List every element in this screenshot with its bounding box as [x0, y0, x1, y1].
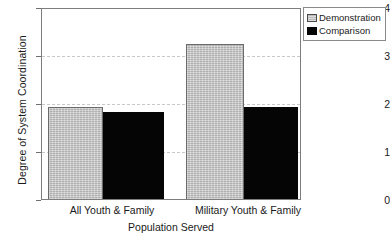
y-tick-label-1: 1	[364, 147, 390, 157]
legend-label-comparison: Comparison	[319, 25, 370, 36]
bar-demonstration-all-youth-family[interactable]	[48, 107, 103, 199]
x-tick-label-all-youth-family: All Youth & Family	[47, 204, 177, 216]
y-tick-label-3: 3	[364, 51, 390, 61]
y-tick-label-0: 0	[364, 195, 390, 205]
bar-chart-figure: Degree of System Coordination 4 3 2 1 0 …	[0, 0, 390, 246]
legend-swatch-comparison-icon	[307, 27, 317, 35]
legend-item-comparison[interactable]: Comparison	[307, 24, 381, 37]
y-axis-label: Degree of System Coordination	[16, 10, 28, 210]
x-axis-label: Population Served	[41, 221, 301, 233]
y-tick-mark-0	[36, 200, 41, 201]
legend-swatch-demonstration-icon	[307, 14, 317, 22]
plot-inner	[42, 9, 300, 199]
chart-legend: Demonstration Comparison	[303, 7, 386, 41]
legend-label-demonstration: Demonstration	[319, 12, 381, 23]
bar-demonstration-military-youth-family[interactable]	[186, 44, 244, 199]
gridline-3	[42, 56, 300, 57]
gridline-2	[42, 104, 300, 105]
bar-comparison-all-youth-family[interactable]	[103, 112, 164, 199]
plot-area	[41, 8, 301, 200]
y-tick-label-2: 2	[364, 99, 390, 109]
legend-item-demonstration[interactable]: Demonstration	[307, 11, 381, 24]
x-tick-label-military-youth-family: Military Youth & Family	[178, 204, 318, 216]
bar-comparison-military-youth-family[interactable]	[244, 107, 298, 199]
